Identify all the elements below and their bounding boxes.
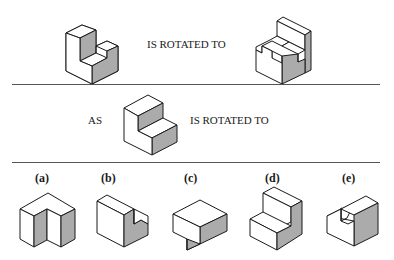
option-e-shape[interactable] <box>0 0 394 260</box>
